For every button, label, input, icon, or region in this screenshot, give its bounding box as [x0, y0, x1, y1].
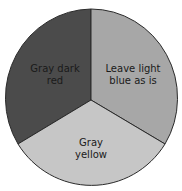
pie-chart: Gray dark red Leave light blue as is Gra… — [0, 0, 182, 191]
slice-label-gray-dark-red-line2: red — [47, 75, 63, 86]
slice-label-light-blue-line2: blue as is — [109, 75, 156, 86]
slice-label-light-blue-line1: Leave light — [105, 63, 160, 74]
slice-label-gray-yellow-line1: Gray — [79, 137, 103, 148]
slice-label-gray-dark-red-line1: Gray dark — [30, 63, 80, 74]
slice-label-gray-yellow-line2: yellow — [75, 149, 107, 160]
